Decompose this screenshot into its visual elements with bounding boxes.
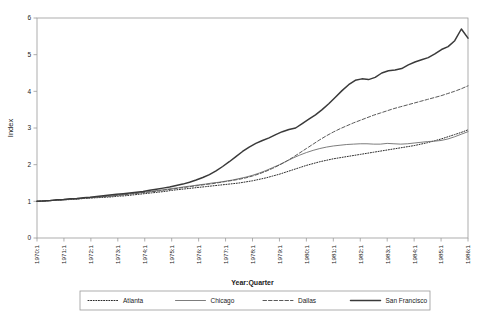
x-tick-label: 1970:1 [33,244,40,263]
chart-container: 0123456Index1970:11971:11972:11973:11974… [0,0,493,316]
x-tick-label: 1971:1 [60,244,67,263]
series-line-atlanta [37,130,468,202]
x-tick-label: 1974:1 [141,244,148,263]
x-tick-label: 1979:1 [276,244,283,263]
y-tick-label: 0 [27,234,31,241]
legend-label-atlanta: Atlanta [123,297,144,304]
x-tick-label: 1982:1 [357,244,364,263]
x-tick-label: 1980:1 [303,244,310,263]
x-tick-label: 1984:1 [411,244,418,263]
y-tick-label: 1 [27,198,31,205]
legend-label-san-francisco: San Francisco [386,297,428,304]
x-axis-title: Year:Quarter [231,279,274,287]
y-tick-label: 2 [27,161,31,168]
x-tick-label: 1976:1 [195,244,202,263]
y-tick-label: 4 [27,88,31,95]
y-axis-title: Index [6,119,15,138]
x-tick-label: 1977:1 [222,244,229,263]
y-tick-label: 5 [27,51,31,58]
x-tick-label: 1978:1 [249,244,256,263]
y-tick-label: 3 [27,124,31,131]
x-tick-label: 1973:1 [114,244,121,263]
line-chart: 0123456Index1970:11971:11972:11973:11974… [0,0,493,316]
plot-frame [37,18,468,238]
x-tick-label: 1975:1 [168,244,175,263]
x-tick-label: 1983:1 [384,244,391,263]
x-tick-label: 1972:1 [87,244,94,263]
x-tick-label: 1985:1 [437,244,444,263]
series-line-chicago [37,132,468,202]
legend-label-dallas: Dallas [298,297,317,304]
x-tick-label: 1981:1 [330,244,337,263]
y-tick-label: 6 [27,14,31,21]
legend-label-chicago: Chicago [211,297,235,305]
x-tick-label: 1986:1 [464,244,471,263]
